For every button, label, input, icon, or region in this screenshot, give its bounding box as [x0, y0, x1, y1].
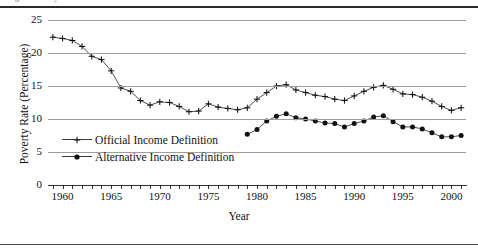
series-alternative: [245, 111, 464, 139]
x-tick: [306, 185, 307, 189]
x-tick: [121, 185, 122, 189]
x-tick: [364, 185, 365, 189]
x-tick: [286, 185, 287, 189]
x-tick: [170, 185, 171, 189]
x-tick-label: 1990: [334, 190, 374, 202]
gridline: [48, 20, 466, 21]
x-tick: [374, 185, 375, 189]
x-tick: [101, 185, 102, 189]
x-tick: [296, 185, 297, 189]
plus-marker-icon: [62, 134, 92, 146]
x-tick: [218, 185, 219, 189]
x-tick: [276, 185, 277, 189]
legend-item-alternative[interactable]: Alternative Income Definition: [62, 148, 277, 165]
x-tick-label: 1970: [140, 190, 180, 202]
x-tick: [63, 185, 64, 189]
x-tick: [335, 185, 336, 189]
legend-label-official: Official Income Definition: [92, 134, 218, 146]
x-tick: [344, 185, 345, 189]
x-tick: [432, 185, 433, 189]
x-tick: [422, 185, 423, 189]
legend-item-official[interactable]: Official Income Definition: [62, 131, 277, 148]
legend-label-alternative: Alternative Income Definition: [92, 151, 234, 163]
x-tick: [72, 185, 73, 189]
x-tick: [403, 185, 404, 189]
x-tick: [451, 185, 452, 189]
x-tick-label: 1985: [286, 190, 326, 202]
x-tick: [413, 185, 414, 189]
x-tick: [199, 185, 200, 189]
gridline: [48, 86, 466, 87]
bottom-divider-rule: [0, 244, 478, 245]
x-tick: [189, 185, 190, 189]
y-axis-title: Poverty Rate (Percentage): [18, 16, 30, 192]
x-tick: [247, 185, 248, 189]
x-tick: [82, 185, 83, 189]
x-tick: [354, 185, 355, 189]
x-tick: [393, 185, 394, 189]
x-tick-label: 2000: [431, 190, 471, 202]
x-axis-title: Year: [0, 210, 478, 222]
gridline: [48, 53, 466, 54]
x-tick: [160, 185, 161, 189]
series-official: [50, 34, 464, 115]
x-tick: [131, 185, 132, 189]
x-tick: [92, 185, 93, 189]
x-tick-label: 1960: [43, 190, 83, 202]
chart-legend: Official Income Definition Alternative I…: [62, 131, 277, 165]
dot-marker-icon: [62, 151, 92, 163]
x-tick: [257, 185, 258, 189]
x-tick: [140, 185, 141, 189]
x-tick: [150, 185, 151, 189]
x-tick-label: 1975: [188, 190, 228, 202]
x-tick: [111, 185, 112, 189]
x-tick: [325, 185, 326, 189]
x-tick-label: 1995: [383, 190, 423, 202]
x-tick: [208, 185, 209, 189]
x-tick: [267, 185, 268, 189]
x-tick-label: 1965: [91, 190, 131, 202]
x-tick: [179, 185, 180, 189]
x-tick: [461, 185, 462, 189]
figure-container: Figure Poverty rates under official and …: [0, 0, 478, 252]
x-tick: [228, 185, 229, 189]
x-tick: [383, 185, 384, 189]
top-divider-rule: [0, 6, 478, 8]
gridline: [48, 119, 466, 120]
x-tick: [53, 185, 54, 189]
x-tick: [442, 185, 443, 189]
x-tick: [238, 185, 239, 189]
x-tick: [315, 185, 316, 189]
x-tick-label: 1980: [237, 190, 277, 202]
figure-caption-fragment: Figure Poverty rates under official and …: [8, 0, 468, 2]
